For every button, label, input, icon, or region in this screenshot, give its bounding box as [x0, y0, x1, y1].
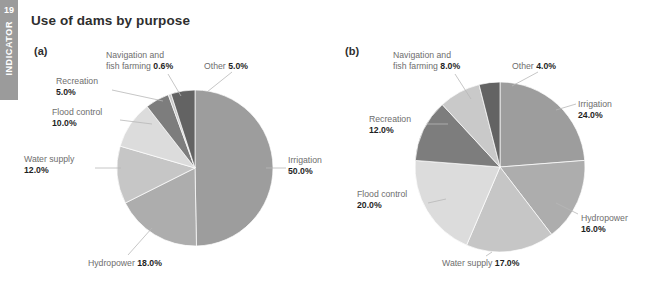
pie-slice-b-recreation — [415, 105, 500, 167]
label-b-recreation: Recreation 12.0% — [369, 114, 411, 136]
label-a-water-supply: Water supply 12.0% — [24, 154, 74, 176]
label-a-water-supply-text: Water supply — [24, 154, 74, 164]
label-a-navigation-line1: Navigation and — [106, 50, 164, 60]
label-b-flood-control: Flood control 20.0% — [357, 189, 407, 211]
label-b-flood-control-value: 20.0% — [357, 200, 382, 210]
pie-slice-b-flood-control — [415, 160, 500, 245]
label-b-water-supply-text: Water supply — [442, 258, 495, 268]
label-a-irrigation-text: Irrigation — [288, 155, 322, 165]
label-a-navigation: Navigation and fish farming 0.6% — [106, 50, 173, 72]
label-b-other-text: Other — [512, 61, 536, 71]
leader-b-hydropower — [556, 203, 578, 214]
pie-slice-a-water-supply — [117, 146, 195, 203]
label-b-recreation-text: Recreation — [369, 114, 411, 124]
label-b-hydropower: Hydropower 16.0% — [581, 213, 628, 235]
indicator-tab: 19 INDICATOR — [0, 0, 18, 100]
label-b-navigation-line2: fish farming — [393, 61, 440, 71]
label-b-navigation-value: 8.0% — [440, 61, 460, 71]
label-a-water-supply-value: 12.0% — [24, 165, 49, 175]
page-title: Use of dams by purpose — [31, 13, 190, 28]
pie-slice-a-irrigation — [195, 90, 273, 246]
label-b-recreation-value: 12.0% — [369, 125, 394, 135]
label-b-other-value: 4.0% — [536, 61, 556, 71]
label-a-other-text: Other — [204, 61, 228, 71]
label-b-other: Other 4.0% — [512, 61, 556, 72]
panel-letter-a: (a) — [34, 45, 47, 57]
label-b-hydropower-value: 16.0% — [581, 224, 606, 234]
leader-b-irrigation — [556, 104, 576, 110]
leader-a-hydropower — [128, 228, 152, 255]
label-a-irrigation: Irrigation 50.0% — [288, 155, 322, 177]
pie-slice-b-water-supply — [467, 167, 552, 252]
pie-slice-a-hydropower — [125, 168, 196, 246]
label-b-flood-control-text: Flood control — [357, 189, 407, 199]
label-a-irrigation-value: 50.0% — [288, 166, 313, 176]
label-a-flood-control: Flood control 10.0% — [52, 107, 102, 129]
leader-b-other — [512, 72, 538, 86]
label-a-other: Other 5.0% — [204, 61, 248, 72]
pie-charts-canvas — [0, 0, 666, 286]
label-a-other-value: 5.0% — [228, 61, 248, 71]
label-a-hydropower-text: Hydropower — [88, 258, 137, 268]
pie-slice-a-other — [171, 90, 195, 168]
label-a-hydropower-value: 18.0% — [137, 258, 162, 268]
label-a-flood-control-value: 10.0% — [52, 118, 77, 128]
label-b-navigation-line1: Navigation and — [393, 50, 451, 60]
label-b-irrigation-text: Irrigation — [578, 99, 612, 109]
pie-slice-b-navigation-and-fish-farming — [442, 85, 500, 167]
label-a-recreation: Recreation 5.0% — [56, 76, 98, 98]
pie-slice-a-flood-control — [120, 106, 195, 168]
label-a-flood-control-text: Flood control — [52, 107, 102, 117]
label-a-navigation-line2: fish farming — [106, 61, 153, 71]
label-b-irrigation-value: 24.0% — [578, 110, 603, 120]
figure-page: 19 INDICATOR Use of dams by purpose (a) … — [0, 0, 666, 286]
leader-b-navigation — [455, 74, 471, 99]
leader-a-other — [207, 72, 232, 92]
leader-b-water — [486, 252, 492, 256]
label-b-water-supply: Water supply 17.0% — [442, 258, 519, 269]
pie-slice-b-other — [479, 82, 500, 167]
label-b-water-supply-value: 17.0% — [495, 258, 520, 268]
label-b-navigation: Navigation and fish farming 8.0% — [393, 50, 460, 72]
label-b-hydropower-text: Hydropower — [581, 213, 628, 223]
label-b-irrigation: Irrigation 24.0% — [578, 99, 612, 121]
indicator-word: INDICATOR — [4, 21, 14, 76]
panel-letter-b: (b) — [345, 45, 359, 57]
label-a-recreation-text: Recreation — [56, 76, 98, 86]
pie-slice-a-recreation — [147, 95, 195, 168]
pie-b — [415, 82, 585, 252]
indicator-number: 19 — [4, 5, 14, 15]
pie-slice-a-navigation-and-fish-farming — [168, 94, 195, 168]
label-a-navigation-value: 0.6% — [153, 61, 173, 71]
pie-slice-b-hydropower — [500, 160, 585, 234]
leader-b-flood — [428, 199, 446, 203]
leader-a-recreation — [112, 90, 163, 101]
label-a-hydropower: Hydropower 18.0% — [88, 258, 162, 269]
label-a-recreation-value: 5.0% — [56, 87, 76, 97]
leader-a-flood — [120, 120, 152, 124]
pie-a — [117, 90, 273, 246]
pie-slice-b-irrigation — [500, 82, 585, 167]
leader-a-navigation — [168, 74, 181, 96]
